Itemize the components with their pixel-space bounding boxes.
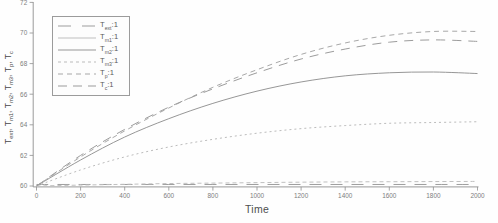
y-axis-label: Text, Tm1, Tm2, Tm3, Tp, Tc: [3, 12, 16, 184]
x-tick-label: 0: [35, 192, 39, 199]
legend-box: Text:1Tm1:1Tm2:1Tm3:1Tp:1Tc:1: [52, 16, 130, 96]
y-tick-label: 66: [20, 91, 28, 98]
legend-line-sample: [57, 47, 97, 53]
legend-line-sample: [57, 35, 97, 41]
legend-label: Tp:1: [100, 69, 114, 79]
curve-T_m1-1: [37, 181, 478, 186]
legend-item-T_m2-1: Tm2:1: [57, 44, 129, 56]
legend-item-T_ext-1: Text:1: [57, 20, 129, 32]
legend-item-T_c-1: Tc:1: [57, 80, 129, 92]
x-tick-label: 2000: [470, 192, 485, 199]
legend-label: Tm3:1: [100, 57, 118, 67]
y-tick-label: 70: [20, 29, 28, 36]
legend-item-T_m1-1: Tm1:1: [57, 32, 129, 44]
y-tick-label: 72: [20, 0, 28, 6]
legend-label: Text:1: [100, 21, 118, 31]
x-tick-label: 1400: [338, 192, 353, 199]
x-tick-label: 1200: [294, 192, 309, 199]
legend-item-T_p-1: Tp:1: [57, 68, 129, 80]
x-tick-label: 800: [208, 192, 219, 199]
y-tick-label: 62: [20, 152, 28, 159]
curve-T_m3-1: [37, 122, 478, 186]
legend-line-sample: [57, 71, 97, 77]
x-tick-label: 400: [119, 192, 130, 199]
x-tick-label: 1000: [250, 192, 265, 199]
legend-label: Tm1:1: [100, 33, 118, 43]
legend-line-sample: [57, 83, 97, 89]
legend-label: Tm2:1: [100, 45, 118, 55]
x-tick-label: 1600: [382, 192, 397, 199]
line-chart-figure: 0200400600800100012001400160018002000606…: [0, 0, 498, 223]
legend-line-sample: [57, 59, 97, 65]
y-tick-label: 60: [20, 182, 28, 189]
y-tick-label: 64: [20, 121, 28, 128]
legend-label: Tc:1: [100, 81, 114, 91]
x-tick-label: 600: [163, 192, 174, 199]
x-axis-label: Time: [36, 203, 478, 215]
x-tick-label: 1800: [426, 192, 441, 199]
legend-line-sample: [57, 23, 97, 29]
x-tick-label: 200: [75, 192, 86, 199]
y-tick-label: 68: [20, 60, 28, 67]
legend-item-T_m3-1: Tm3:1: [57, 56, 129, 68]
